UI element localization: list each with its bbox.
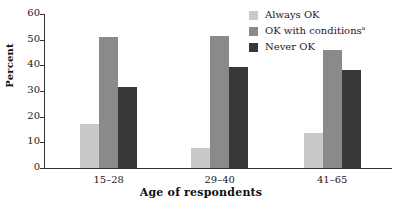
bar — [118, 87, 137, 168]
chart-legend: Always OKOK with conditionsaNever OK — [249, 8, 365, 56]
y-axis-tick-mark — [40, 168, 44, 169]
y-axis-tick: 30 — [44, 91, 45, 92]
y-axis-tick-label: 40 — [14, 58, 40, 69]
bar-group — [80, 14, 137, 168]
y-axis-tick-label: 60 — [14, 7, 40, 18]
legend-label: OK with conditionsa — [265, 26, 365, 36]
y-axis-tick: 60 — [44, 14, 45, 15]
y-axis-tick-label: 20 — [14, 110, 40, 121]
bar-group — [191, 14, 248, 168]
y-axis-tick: 40 — [44, 65, 45, 66]
legend-item: OK with conditionsa — [249, 24, 365, 38]
legend-color-swatch — [249, 11, 258, 20]
legend-label: Always OK — [265, 10, 320, 20]
legend-color-swatch — [249, 27, 258, 36]
y-axis-tick-mark — [40, 65, 44, 66]
y-axis-tick-label: 30 — [14, 84, 40, 95]
y-axis-tick: 0 — [44, 168, 45, 169]
y-axis-tick-mark — [40, 40, 44, 41]
bar — [229, 67, 248, 168]
bar — [342, 70, 361, 168]
x-axis-tick-label: 29–40 — [175, 174, 265, 185]
y-axis-tick-label: 10 — [14, 135, 40, 146]
y-axis-tick-mark — [40, 91, 44, 92]
x-axis-line — [44, 168, 392, 169]
y-axis-tick-label: 50 — [14, 33, 40, 44]
x-axis-title: Age of respondents — [0, 186, 402, 199]
legend-footnote-marker: a — [362, 24, 366, 31]
bar — [323, 50, 342, 168]
bar — [210, 36, 229, 168]
y-axis-tick-mark — [40, 142, 44, 143]
y-axis-tick: 50 — [44, 40, 45, 41]
y-axis-tick: 10 — [44, 142, 45, 143]
bar — [191, 148, 210, 168]
x-axis-tick-label: 15–28 — [64, 174, 154, 185]
y-axis-tick-mark — [40, 117, 44, 118]
legend-item: Never OK — [249, 40, 365, 54]
bar — [304, 133, 323, 168]
y-axis-tick-label: 0 — [14, 161, 40, 172]
x-axis-tick-label: 41–65 — [287, 174, 377, 185]
legend-color-swatch — [249, 43, 258, 52]
y-axis-tick: 20 — [44, 117, 45, 118]
bar — [80, 124, 99, 168]
y-axis-title: Percent — [4, 31, 15, 101]
y-axis-tick-mark — [40, 14, 44, 15]
bar-chart-figure: Percent 0102030405060 15–2829–4041–65 Ag… — [0, 0, 402, 210]
legend-item: Always OK — [249, 8, 365, 22]
legend-label: Never OK — [265, 42, 315, 52]
bar — [99, 37, 118, 168]
